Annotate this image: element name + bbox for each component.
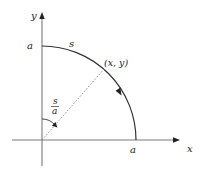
y-intercept-label: a — [27, 40, 33, 51]
y-axis — [39, 12, 44, 166]
y-axis-arrow-icon — [39, 12, 44, 19]
angle-denominator: a — [52, 106, 57, 116]
arc-diagram: y x a a s (x, y) s a — [0, 0, 210, 171]
x-intercept-label: a — [130, 144, 136, 155]
x-axis-arrow-icon — [173, 137, 180, 142]
y-axis-label: y — [30, 10, 37, 21]
point-label: (x, y) — [104, 57, 128, 68]
arc-length-label: s — [69, 38, 74, 49]
angle-numerator: s — [53, 96, 58, 106]
radius-dashed-line — [42, 69, 104, 140]
x-axis-label: x — [187, 143, 193, 154]
angle-fraction: s a — [51, 96, 59, 116]
x-axis — [12, 137, 180, 142]
angle-arc — [42, 119, 55, 125]
